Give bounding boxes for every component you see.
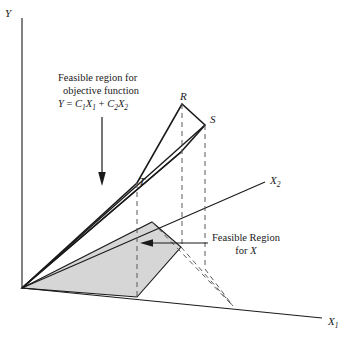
vertex-label-r: R xyxy=(180,90,187,104)
objective-annotation: Feasible region for objective function Y… xyxy=(58,71,139,113)
objective-annotation-equation: Y = C1X1 + C2X2 xyxy=(58,97,139,112)
equation-equals: = xyxy=(64,98,75,109)
equation-plus: + xyxy=(96,98,107,109)
x1-axis-line xyxy=(22,288,322,318)
x2-axis-label-subscript: 2 xyxy=(277,180,281,189)
equation-c1: C xyxy=(75,98,82,109)
equation-x2-subscript: 2 xyxy=(124,103,128,112)
objective-annotation-line1: Feasible region for xyxy=(58,71,139,84)
vertex-label-s: S xyxy=(210,113,216,127)
feasible-x-annotation-prefix: for xyxy=(235,245,250,256)
feasible-x-annotation-variable: X xyxy=(250,245,256,256)
objective-annotation-arrow xyxy=(98,117,106,186)
x1-axis-label-text: X xyxy=(328,315,335,327)
diagram-canvas xyxy=(0,0,360,345)
feasible-x-annotation-line2: for X xyxy=(212,244,280,257)
feasible-region-figure: Y X1 X2 R S T Feasible region for object… xyxy=(0,0,360,345)
x1-axis-label: X1 xyxy=(328,315,338,331)
feasible-x-annotation: Feasible Region for X xyxy=(212,231,280,257)
objective-annotation-line2: objective function xyxy=(58,84,139,97)
feasible-x-annotation-line1: Feasible Region xyxy=(212,231,280,244)
vertex-label-t: T xyxy=(139,175,145,189)
dashed-projection-s-base xyxy=(205,269,233,306)
x2-axis-label: X2 xyxy=(270,174,280,190)
shaded-feasible-region-x xyxy=(22,222,181,297)
x1-axis-label-subscript: 1 xyxy=(335,321,339,330)
x2-axis-label-text: X xyxy=(270,174,277,186)
y-axis-label: Y xyxy=(5,7,11,21)
